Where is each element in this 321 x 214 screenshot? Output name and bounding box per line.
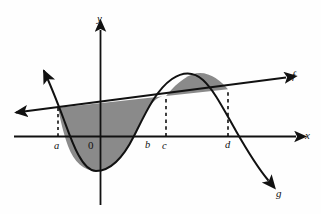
line-f [16, 78, 286, 113]
origin-label: 0 [88, 140, 94, 151]
graph-figure: y x 0 a b c d f g [0, 0, 321, 214]
point-label-d: d [225, 140, 230, 151]
y-axis-label: y [97, 13, 102, 24]
point-label-a: a [54, 141, 59, 152]
curve-label-f: f [292, 70, 295, 81]
graph-canvas [0, 0, 321, 214]
point-label-c: c [162, 141, 167, 152]
x-axis-label: x [305, 130, 310, 141]
point-label-b: b [145, 140, 150, 151]
curve-label-g: g [276, 188, 282, 199]
